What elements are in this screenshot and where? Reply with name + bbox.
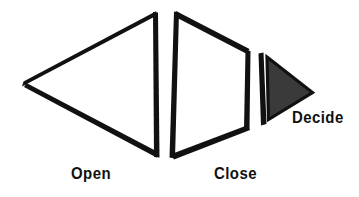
open-triangle-shape <box>22 11 160 158</box>
close-trapezoid-right-edge <box>244 51 251 130</box>
close-trapezoid-shape <box>170 11 251 160</box>
label-decide: Decide <box>292 109 344 126</box>
open-triangle-bottom-edge <box>24 83 158 158</box>
decide-triangle-outer-stroke <box>259 53 267 126</box>
open-triangle-top-edge <box>22 11 157 87</box>
open-close-decide-figure <box>0 0 359 197</box>
diagram-canvas: Open Close Decide <box>0 0 359 197</box>
close-trapezoid-left-edge <box>170 12 180 159</box>
label-open: Open <box>71 165 111 182</box>
open-triangle-right-edge <box>153 12 160 158</box>
close-trapezoid-top-edge <box>175 11 250 54</box>
label-close: Close <box>214 165 257 182</box>
close-trapezoid-bottom-edge <box>172 125 251 160</box>
